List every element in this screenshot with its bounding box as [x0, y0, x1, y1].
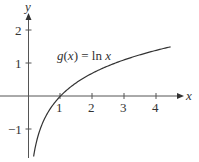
function-var-2: x	[104, 48, 111, 63]
graph-canvas: 1 2 3 4 2 1 −1 x y g(x) = ln x	[0, 0, 199, 162]
y-tick-label-1: 1	[15, 56, 22, 71]
y-axis-label: y	[23, 0, 31, 14]
x-axis-label: x	[185, 88, 192, 103]
y-tick-label-neg1: −1	[8, 122, 22, 137]
y-tick-label-2: 2	[15, 23, 22, 38]
function-label: g(x) = ln x	[57, 48, 111, 63]
y-axis-arrow-icon	[26, 13, 32, 20]
x-tick-label-2: 2	[88, 100, 95, 115]
ln-curve	[34, 47, 171, 157]
function-equals-ln: ) = ln	[74, 48, 106, 63]
x-tick-label-4: 4	[152, 100, 159, 115]
x-tick-label-1: 1	[56, 100, 63, 115]
x-tick-label-3: 3	[120, 100, 127, 115]
x-axis-arrow-icon	[177, 93, 184, 99]
